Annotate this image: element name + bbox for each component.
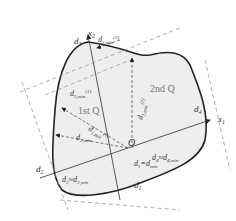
section-diagram: O x1 x2 d3 d3,min(2) d3,min(1) d1,min(1)…	[0, 0, 236, 221]
d3-min-2-label: d3,min(2)	[98, 35, 119, 46]
first-quadrant-label: 1st Q	[78, 105, 100, 116]
d3-label: d3	[74, 36, 82, 47]
x2-label: x2	[87, 28, 95, 39]
x1-label: x1	[217, 114, 225, 125]
origin-label: O	[128, 137, 135, 148]
second-quadrant-label: 2nd Q	[150, 83, 176, 94]
cross-section-shape	[53, 42, 207, 195]
d2-label: d2	[36, 164, 44, 175]
